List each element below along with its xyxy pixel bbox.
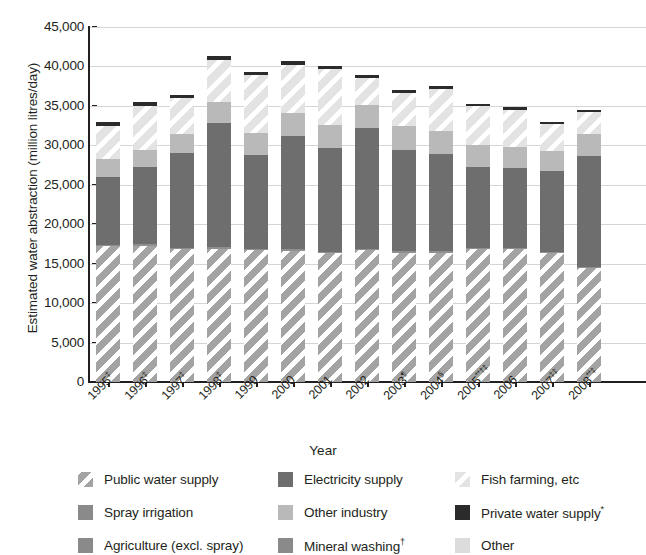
- bar-1996: [133, 27, 157, 382]
- bar-segment: [540, 124, 564, 151]
- bar-segment: [170, 153, 194, 248]
- y-tick-label: 10,000: [14, 296, 84, 310]
- bar-2007: [540, 27, 564, 382]
- bar-2000: [281, 27, 305, 382]
- bar-segment: [540, 252, 564, 254]
- bar-2004: [429, 27, 453, 382]
- bar-segment: [170, 134, 194, 154]
- bar-segment: [577, 267, 601, 269]
- bar-1997: [170, 27, 194, 382]
- bar-segment: [133, 102, 157, 106]
- bar-2001: [318, 27, 342, 382]
- legend-swatch-private: [455, 505, 470, 520]
- legend-item-elec[interactable]: Electricity supply: [278, 470, 403, 488]
- bar-2003: [392, 27, 416, 382]
- y-axis-line: [88, 26, 90, 383]
- bar-segment: [466, 249, 490, 382]
- bar-segment: [429, 89, 453, 131]
- bar-segment: [318, 253, 342, 382]
- bar-segment: [244, 72, 268, 75]
- bar-segment: [170, 98, 194, 134]
- legend-label-spray: Spray irrigation: [104, 505, 193, 520]
- bar-segment: [133, 150, 157, 167]
- legend-label-other: Other: [481, 538, 514, 553]
- bar-segment: [207, 60, 231, 102]
- y-tick-label: 40,000: [14, 59, 84, 73]
- bar-segment: [281, 136, 305, 250]
- legend-label-private: Private water supply*: [481, 504, 604, 521]
- bar-2002: [355, 27, 379, 382]
- bar-segment: [577, 156, 601, 267]
- bar-segment: [429, 251, 453, 253]
- bar-segment: [503, 249, 527, 382]
- legend-label-agri: Agriculture (excl. spray): [104, 538, 243, 553]
- bar-segment: [577, 112, 601, 134]
- bar-segment: [170, 249, 194, 382]
- legend-item-otherind[interactable]: Other industry: [278, 503, 387, 521]
- bar-segment: [244, 133, 268, 155]
- legend-item-agri[interactable]: Agriculture (excl. spray): [78, 536, 243, 554]
- bar-segment: [466, 167, 490, 248]
- legend-label-public: Public water supply: [104, 472, 218, 487]
- bar-segment: [207, 123, 231, 247]
- bar-segment: [540, 122, 564, 124]
- bar-1998: [207, 27, 231, 382]
- legend-label-mineral: Mineral washing†: [304, 537, 405, 554]
- bar-segment: [133, 244, 157, 246]
- legend-label-fish: Fish farming, etc: [481, 472, 579, 487]
- bar-1999: [244, 27, 268, 382]
- bar-segment: [96, 122, 120, 126]
- bar-segment: [392, 253, 416, 382]
- legend-item-private[interactable]: Private water supply*: [455, 503, 604, 521]
- bar-segment: [392, 126, 416, 150]
- bar-segment: [355, 249, 379, 251]
- bar-segment: [503, 110, 527, 147]
- bar-segment: [392, 90, 416, 93]
- bar-segment: [133, 106, 157, 150]
- y-tick-label: 0: [14, 375, 84, 389]
- bar-segment: [355, 105, 379, 128]
- bar-segment: [577, 110, 601, 112]
- bar-segment: [318, 66, 342, 69]
- bar-segment: [540, 171, 564, 251]
- bar-segment: [96, 159, 120, 177]
- bar-segment: [429, 154, 453, 251]
- legend-swatch-spray: [78, 505, 93, 520]
- bar-segment: [355, 250, 379, 382]
- legend-swatch-mineral: [278, 538, 293, 553]
- bar-segment: [503, 168, 527, 248]
- bar-segment: [318, 148, 342, 251]
- legend-swatch-agri: [78, 538, 93, 553]
- y-tick-label: 45,000: [14, 20, 84, 34]
- bar-segment: [355, 75, 379, 78]
- y-tick-label: 30,000: [14, 138, 84, 152]
- bar-segment: [96, 245, 120, 247]
- bar-segment: [429, 86, 453, 89]
- bar-segment: [577, 268, 601, 382]
- bar-segment: [207, 249, 231, 382]
- bar-segment: [244, 155, 268, 249]
- bar-segment: [170, 95, 194, 98]
- legend-swatch-elec: [278, 472, 293, 487]
- legend-item-spray[interactable]: Spray irrigation: [78, 503, 193, 521]
- bar-segment: [429, 131, 453, 154]
- bar-segment: [170, 248, 194, 250]
- legend-swatch-fish: [455, 472, 470, 487]
- legend-swatch-public: [78, 472, 93, 487]
- bar-segment: [244, 249, 268, 251]
- bar-segment: [540, 151, 564, 172]
- bar-segment: [318, 69, 342, 125]
- legend-item-other[interactable]: Other: [455, 536, 514, 554]
- bar-segment: [503, 107, 527, 109]
- y-tick-label: 20,000: [14, 217, 84, 231]
- x-axis-title: Year: [0, 443, 646, 458]
- chart-legend: Public water supplySpray irrigationAgric…: [78, 470, 646, 555]
- bar-segment: [281, 113, 305, 136]
- bar-segment: [466, 145, 490, 167]
- legend-item-mineral[interactable]: Mineral washing†: [278, 536, 405, 554]
- bar-segment: [392, 150, 416, 251]
- bar-segment: [429, 253, 453, 382]
- legend-item-public[interactable]: Public water supply: [78, 470, 218, 488]
- y-tick-label: 35,000: [14, 99, 84, 113]
- legend-item-fish[interactable]: Fish farming, etc: [455, 470, 579, 488]
